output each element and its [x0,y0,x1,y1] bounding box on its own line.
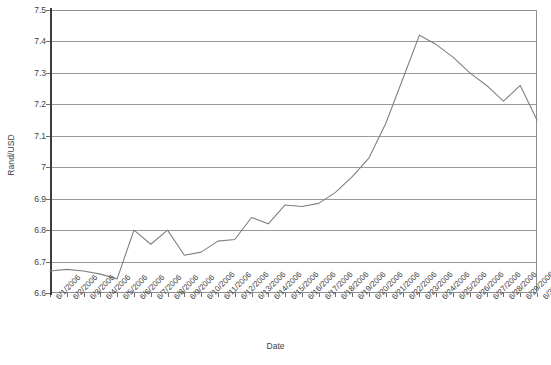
x-tick-label: 6/30/2006 [541,295,547,301]
x-tick-label: 6/10/2006 [205,295,211,301]
x-tick-label: 6/1/2006 [54,295,60,301]
x-tick-label: 6/26/2006 [474,295,480,301]
x-axis-title: Date [0,341,551,351]
x-tick-label: 6/6/2006 [138,295,144,301]
y-tick-label: 7.1 [34,131,46,141]
x-tick-label: 6/25/2006 [457,295,463,301]
chart-container: Rand/USD 7.57.47.37.27.176.96.86.76.6 6/… [0,0,551,365]
x-tick-label: 6/8/2006 [172,295,178,301]
y-tick-label: 6.6 [34,288,46,298]
y-axis-tick-labels: 7.57.47.37.27.176.96.86.76.6 [18,10,46,293]
x-tick-label: 6/28/2006 [507,295,513,301]
x-tick-label: 6/5/2006 [121,295,127,301]
x-tick-label: 6/16/2006 [306,295,312,301]
x-tick-label: 6/27/2006 [491,295,497,301]
y-tick-label: 7.4 [34,36,46,46]
x-tick-label: 6/7/2006 [155,295,161,301]
x-tick-label: 6/4/2006 [104,295,110,301]
x-tick-label: 6/11/2006 [222,295,228,301]
x-tick-label: 6/2/2006 [71,295,77,301]
series-line-chart [50,10,537,293]
x-tick-label: 6/15/2006 [289,295,295,301]
y-tick-label: 7.2 [34,99,46,109]
y-tick-label: 6.7 [34,257,46,267]
x-tick-label: 6/22/2006 [407,295,413,301]
x-tick-label: 6/9/2006 [188,295,194,301]
y-tick-label: 7.3 [34,68,46,78]
x-tick-label: 6/24/2006 [440,295,446,301]
x-axis-tick-labels: 6/1/20066/2/20066/3/20066/4/20066/5/2006… [50,295,537,345]
y-tick-label: 7.5 [34,5,46,15]
x-tick-label: 6/18/2006 [339,295,345,301]
x-tick-label: 6/12/2006 [239,295,245,301]
series-line-rand-usd [50,35,537,279]
x-tick-label: 6/29/2006 [524,295,530,301]
y-tick-label: 6.8 [34,225,46,235]
x-tick-label: 6/17/2006 [323,295,329,301]
y-axis-title-text: Rand/USD [6,134,16,175]
x-tick-label: 6/14/2006 [272,295,278,301]
plot-area [50,10,537,293]
x-tick-label: 6/13/2006 [256,295,262,301]
y-tick-label: 6.9 [34,194,46,204]
x-tick-label: 6/23/2006 [423,295,429,301]
x-tick-label: 6/3/2006 [88,295,94,301]
x-tick-label: 6/21/2006 [390,295,396,301]
x-tick-label: 6/19/2006 [356,295,362,301]
x-tick-label: 6/20/2006 [373,295,379,301]
